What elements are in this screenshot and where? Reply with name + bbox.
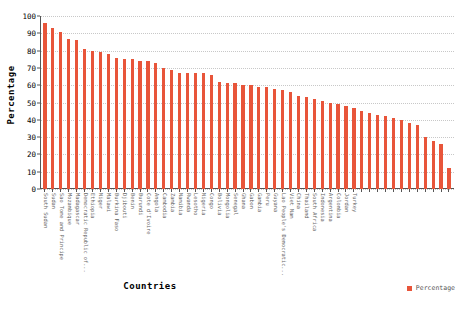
bar — [210, 75, 213, 189]
bar — [233, 83, 236, 189]
x-tick-slot — [57, 189, 65, 192]
bar-slot — [413, 16, 421, 189]
x-tick-label: Mozambique — [66, 193, 72, 225]
bar-slot — [271, 16, 279, 189]
x-tick-mark — [147, 189, 148, 192]
bar-slot — [358, 16, 366, 189]
x-tick-mark — [338, 189, 339, 192]
x-label-slot: Ghana — [239, 193, 247, 265]
bar — [138, 61, 141, 189]
bar — [67, 39, 70, 190]
x-axis-tick-marks — [40, 189, 454, 192]
x-tick-mark — [124, 189, 125, 192]
x-tick-slot — [342, 189, 350, 192]
x-tick-slot — [89, 189, 97, 192]
x-tick-slot — [160, 189, 168, 192]
x-tick-label: Lao People's Democratic... — [280, 193, 286, 276]
x-tick-mark — [116, 189, 117, 192]
x-label-slot — [374, 193, 382, 265]
x-label-slot: Democratic Republic of... — [81, 193, 89, 265]
bar-slot — [302, 16, 310, 189]
x-tick-slot — [152, 189, 160, 192]
y-tick-label: 0 — [31, 185, 36, 194]
x-tick-mark — [369, 189, 370, 192]
x-tick-mark — [306, 189, 307, 192]
legend-label-percentage: Percentage — [416, 284, 455, 292]
x-tick-mark — [203, 189, 204, 192]
x-tick-mark — [219, 189, 220, 192]
x-tick-label: Angola — [153, 193, 159, 212]
y-tick-label: 90 — [27, 29, 36, 38]
x-tick-mark — [385, 189, 386, 192]
x-label-slot — [397, 193, 405, 265]
x-tick-slot — [310, 189, 318, 192]
x-tick-slot — [318, 189, 326, 192]
bar — [352, 108, 355, 189]
bar-slot — [405, 16, 413, 189]
bar — [146, 61, 149, 189]
bar-slot — [104, 16, 112, 189]
bar — [447, 168, 450, 189]
x-tick-slot — [445, 189, 453, 192]
bar-slot — [199, 16, 207, 189]
x-label-slot: Burkina Faso — [112, 193, 120, 265]
x-tick-label: Ethiopia — [90, 193, 96, 219]
bar-slot — [223, 16, 231, 189]
x-tick-mark — [195, 189, 196, 192]
x-label-slot: Mongolia — [223, 193, 231, 265]
x-tick-mark — [448, 189, 449, 192]
x-tick-slot — [73, 189, 81, 192]
bar-slot — [81, 16, 89, 189]
bar-slot — [382, 16, 390, 189]
x-tick-label: Namibia — [177, 193, 183, 215]
x-tick-slot — [231, 189, 239, 192]
bar-slot — [334, 16, 342, 189]
x-tick-mark — [377, 189, 378, 192]
x-tick-mark — [243, 189, 244, 192]
bar-slot — [215, 16, 223, 189]
bar — [424, 137, 427, 189]
bar — [241, 85, 244, 189]
legend-swatch-percentage — [407, 286, 412, 291]
bar-slot — [96, 16, 104, 189]
bar-chart: Percentage 0102030405060708090100 South … — [0, 0, 463, 312]
bar — [376, 115, 379, 189]
x-tick-slot — [437, 189, 445, 192]
x-tick-slot — [144, 189, 152, 192]
bar-slot — [310, 16, 318, 189]
x-tick-mark — [274, 189, 275, 192]
y-tick-label: 50 — [27, 98, 36, 107]
bar-slot — [287, 16, 295, 189]
x-tick-label: Cote d'Ivoire — [145, 193, 151, 234]
x-tick-slot — [287, 189, 295, 192]
x-tick-slot — [429, 189, 437, 192]
bar-slot — [421, 16, 429, 189]
bar — [360, 111, 363, 189]
bar — [226, 83, 229, 189]
bar-slot — [112, 16, 120, 189]
bar-slot — [57, 16, 65, 189]
x-tick-label: Burkina Faso — [113, 193, 119, 231]
y-tick-label: 60 — [27, 81, 36, 90]
x-tick-label: Peru — [264, 193, 270, 206]
bar-slot — [152, 16, 160, 189]
bar-slot — [279, 16, 287, 189]
x-tick-mark — [345, 189, 346, 192]
bar — [439, 144, 442, 189]
x-tick-slot — [136, 189, 144, 192]
x-label-slot: Viet Nam — [287, 193, 295, 265]
x-tick-slot — [421, 189, 429, 192]
bar-slot — [144, 16, 152, 189]
x-tick-slot — [223, 189, 231, 192]
x-label-slot: Burundi — [136, 193, 144, 265]
x-tick-slot — [184, 189, 192, 192]
x-tick-label: Djibouti — [121, 193, 127, 219]
x-label-slot: South Africa — [310, 193, 318, 265]
x-label-slot: Gambia — [255, 193, 263, 265]
bar-slot — [247, 16, 255, 189]
x-tick-label: Benin — [129, 193, 135, 209]
x-label-slot — [390, 193, 398, 265]
x-tick-slot — [279, 189, 287, 192]
y-tick-label: 10 — [27, 167, 36, 176]
x-tick-slot — [247, 189, 255, 192]
